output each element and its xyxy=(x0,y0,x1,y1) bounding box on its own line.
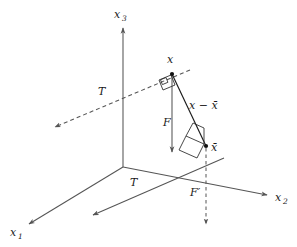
axis-label-x2-subscript: 2 xyxy=(282,197,288,206)
vector-group xyxy=(172,74,206,224)
label-vector-F: F xyxy=(162,116,171,129)
label-point-x: x xyxy=(167,53,174,66)
projection-diagram-figure: x 1 x 2 x 3 T T x x̄ F F′ x − x̄ xyxy=(0,0,297,247)
axis-x1-line xyxy=(29,167,123,224)
label-vector-x-minus-xbar: x − x̄ xyxy=(189,99,218,112)
label-vector-Fprime: F′ xyxy=(189,186,201,199)
label-group: x 1 x 2 x 3 T T x x̄ F F′ x − x̄ xyxy=(10,8,288,241)
right-angle-marker-at-xbar xyxy=(179,136,204,158)
axis-label-x2: x xyxy=(275,191,282,204)
axis-group xyxy=(29,28,267,224)
diagram-canvas: x 1 x 2 x 3 T T x x̄ F F′ x − x̄ xyxy=(0,0,297,247)
axis-label-x3-subscript: 3 xyxy=(122,14,127,23)
label-T-lower: T xyxy=(130,176,139,189)
right-angle-marker-at-xbar-inner xyxy=(186,123,204,144)
label-T-upper: T xyxy=(98,85,107,98)
point-dot-x xyxy=(170,72,174,76)
axis-label-x1-subscript: 1 xyxy=(18,232,23,241)
axis-label-x3: x xyxy=(114,8,121,21)
subspace-T-lower-line xyxy=(93,158,224,215)
point-dot-xbar xyxy=(204,144,208,148)
axis-label-x1: x xyxy=(10,226,17,239)
label-point-xbar: x̄ xyxy=(211,141,218,154)
